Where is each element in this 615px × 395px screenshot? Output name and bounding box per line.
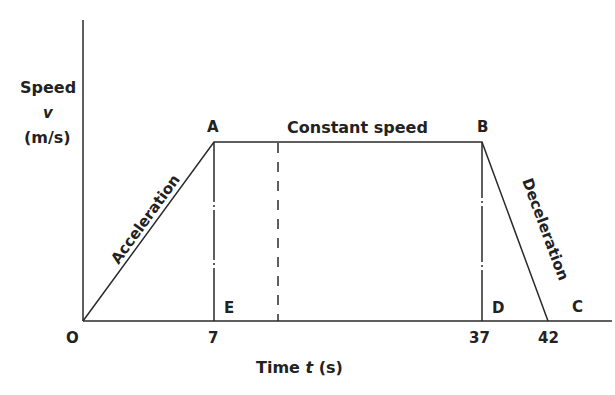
point-label-E: E — [224, 301, 234, 316]
point-label-A: A — [207, 120, 219, 135]
point-label-D: D — [492, 301, 504, 316]
x-axis-label-var: t — [306, 358, 314, 377]
constant-speed-label: Constant speed — [287, 120, 428, 136]
y-label-v: v — [43, 106, 53, 121]
speed-time-graph — [0, 0, 615, 395]
origin-label: O — [66, 331, 79, 346]
x-axis-label: Time t (s) — [256, 360, 343, 376]
point-label-C: C — [572, 300, 583, 315]
y-label-unit: (m/s) — [24, 130, 71, 146]
point-label-B: B — [477, 120, 488, 135]
y-label-speed: Speed — [20, 80, 76, 96]
speed-curve — [83, 142, 548, 321]
x-tick-42: 42 — [538, 331, 559, 346]
x-tick-7: 7 — [208, 331, 218, 346]
x-axis-label-unit: (s) — [313, 358, 343, 377]
x-axis-label-text: Time — [256, 358, 306, 377]
x-tick-37: 37 — [469, 331, 490, 346]
